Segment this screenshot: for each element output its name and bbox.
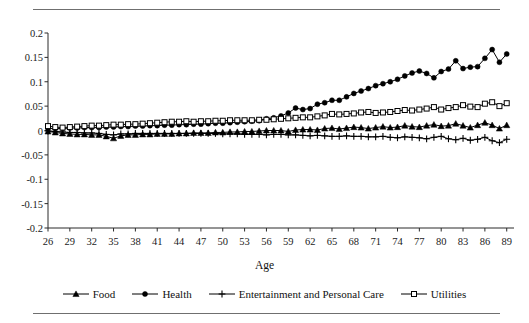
legend-entry-health[interactable]: Health — [132, 288, 191, 300]
x-tick-label: 35 — [108, 236, 119, 247]
y-tick-label: -0.2 — [4, 223, 43, 234]
x-tick-label: 62 — [305, 236, 316, 247]
legend-label: Entertainment and Personal Care — [239, 288, 384, 300]
legend-label: Utilities — [431, 288, 466, 300]
x-tick-label: 86 — [480, 236, 491, 247]
x-tick-label: 65 — [327, 236, 338, 247]
legend-label: Health — [162, 288, 191, 300]
plus-icon — [209, 288, 235, 300]
x-tick-label: 68 — [349, 236, 360, 247]
x-tick-label: 47 — [196, 236, 207, 247]
x-tick-label: 71 — [370, 236, 381, 247]
y-tick-label: 0.2 — [4, 28, 43, 39]
x-tick-label: 44 — [174, 236, 185, 247]
x-tick-label: 32 — [86, 236, 97, 247]
filled-triangle-icon — [63, 288, 89, 300]
x-tick-label: 80 — [436, 236, 447, 247]
y-tick-label: 0.15 — [4, 52, 43, 63]
x-tick-label: 41 — [152, 236, 163, 247]
y-tick-label: -0.1 — [4, 174, 43, 185]
x-tick-label: 26 — [43, 236, 54, 247]
legend-entry-food[interactable]: Food — [63, 288, 116, 300]
chart-figure: 0.20.150.10.050-0.05-0.1-0.15-0.2 262932… — [0, 0, 529, 323]
x-tick-label: 77 — [414, 236, 425, 247]
chart-legend: FoodHealthEntertainment and Personal Car… — [0, 288, 529, 300]
series-health — [46, 47, 510, 131]
x-tick-label: 74 — [392, 236, 403, 247]
legend-entry-utilities[interactable]: Utilities — [401, 288, 466, 300]
y-tick-label: -0.05 — [4, 149, 43, 160]
y-tick-label: 0.05 — [4, 101, 43, 112]
filled-circle-icon — [132, 288, 158, 300]
x-tick-label: 38 — [130, 236, 141, 247]
x-tick-label: 56 — [261, 236, 272, 247]
y-tick-label: 0 — [4, 125, 43, 136]
legend-label: Food — [93, 288, 116, 300]
x-tick-label: 59 — [283, 236, 294, 247]
x-tick-label: 29 — [65, 236, 76, 247]
x-tick-label: 50 — [218, 236, 229, 247]
x-tick-label: 53 — [239, 236, 250, 247]
x-tick-label: 89 — [501, 236, 512, 247]
x-axis-title: Age — [0, 259, 529, 271]
y-tick-label: -0.15 — [4, 198, 43, 209]
y-tick-label: 0.1 — [4, 76, 43, 87]
x-tick-label: 83 — [458, 236, 469, 247]
legend-entry-entertainment-and-personal-care[interactable]: Entertainment and Personal Care — [209, 288, 384, 300]
open-square-icon — [401, 288, 427, 300]
line-chart-plot — [0, 0, 529, 323]
